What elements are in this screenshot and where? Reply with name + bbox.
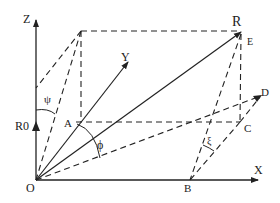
construction-lines [36, 31, 260, 180]
label-c: C [244, 122, 251, 134]
r-vector [36, 32, 241, 180]
label-y: Y [121, 50, 130, 64]
label-d: D [261, 86, 269, 98]
r0-arrow-icon [32, 121, 40, 131]
label-phi: ϕ [97, 138, 103, 152]
psi-arc [36, 110, 55, 115]
label-e: E [247, 36, 253, 47]
coordinate-diagram: Z R0 O X Y R E A B C D ψ ϕ ξ [0, 0, 280, 203]
y-axis-vector [36, 62, 128, 180]
label-psi: ψ [44, 93, 51, 105]
label-r: R [232, 14, 242, 29]
label-r0: R0 [15, 119, 29, 133]
label-x: X [254, 163, 263, 177]
label-xi: ξ [207, 135, 212, 147]
label-z: Z [23, 12, 30, 26]
label-origin: O [26, 181, 35, 195]
label-a: A [64, 117, 72, 129]
label-b: B [184, 182, 191, 194]
